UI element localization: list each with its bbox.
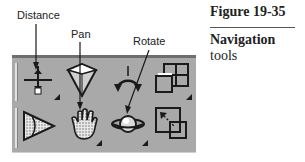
roll-tool[interactable] [108,60,148,100]
distance-tool[interactable] [20,60,60,100]
caption-bold: Navigation [210,32,275,47]
callout-rotate-label: Rotate [133,35,165,47]
views-tool[interactable] [152,60,192,100]
pan-tool[interactable] [64,104,104,144]
callout-pan-label: Pan [71,28,91,40]
toolbar-grip-bottom[interactable] [15,108,18,148]
fly-tool[interactable] [20,106,60,146]
callout-distance-label: Distance [17,9,60,21]
rotate-tool[interactable] [108,104,148,144]
zoom-box-icon [152,104,192,144]
caption-rest: tools [210,48,237,63]
planet-icon [108,104,148,144]
figure-caption: Navigation tools [210,32,305,64]
navigation-toolbar [12,55,196,153]
flyout-indicator [54,94,60,100]
circular-arrows-icon [108,60,148,100]
cone-zoom-icon [62,60,102,100]
zoom-to-box-tool[interactable] [152,104,192,144]
zoom-box-tool[interactable] [62,60,102,100]
triangle-pointer-icon [20,106,60,146]
caption-divider [210,27,295,28]
flyout-indicator [186,94,192,100]
hand-icon [64,104,104,144]
flyout-indicator [96,140,102,146]
flyout-indicator [142,140,148,146]
toolbar-grip-top[interactable] [15,63,18,101]
figure-number: Figure 19-35 [210,4,286,20]
